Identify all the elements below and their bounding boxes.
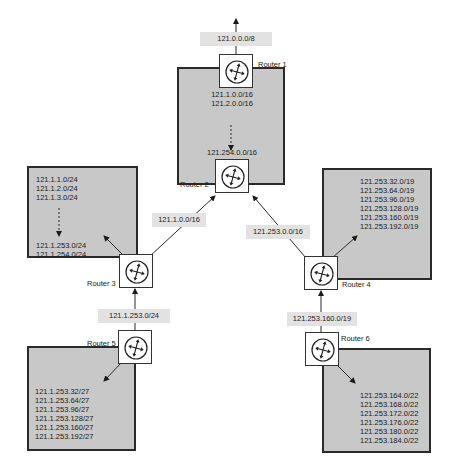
network-entry: 121.1.253.160/27: [35, 423, 93, 432]
network-entry: 121.1.3.0/24: [36, 193, 78, 202]
router-icon: [220, 55, 254, 89]
network-entry: 121.1.253.128/27: [35, 414, 93, 423]
network-entry: 121.253.184.0/22: [360, 436, 418, 445]
network-entry: 121.2.0.0/16: [190, 99, 274, 108]
network-entry: 121.1.2.0/24: [36, 184, 78, 193]
network-list-top-last: 121.254.0.0/16: [188, 148, 276, 157]
network-list-left-last: 121.1.253.0/24 121.1.254.0/24: [36, 241, 86, 259]
network-entry: 121.253.96.0/19: [360, 195, 418, 204]
router-5: [118, 330, 152, 364]
router-icon: [120, 255, 154, 289]
router-icon: [306, 333, 340, 367]
network-entry: 121.1.253.0/24: [36, 241, 86, 250]
network-list-bottom-left: 121.1.253.32/27 121.1.253.64/27 121.1.25…: [35, 387, 93, 441]
advertisement-label-router3: 121.1.0.0/16: [152, 213, 206, 227]
advertisement-label-router5: 121.1.253.0/24: [98, 309, 170, 323]
router-5-label: Router 5: [87, 339, 116, 348]
network-entry: 121.253.172.0/22: [360, 409, 418, 418]
network-entry: 121.253.128.0/19: [360, 204, 418, 213]
router-icon: [216, 160, 250, 194]
router-4: [304, 256, 338, 290]
router-1-label: Router 1: [258, 60, 287, 69]
router-1: [219, 54, 253, 88]
router-4-label: Router 4: [342, 280, 371, 289]
network-entry: 121.1.1.0/24: [36, 175, 78, 184]
network-entry: 121.1.253.64/27: [35, 396, 93, 405]
network-entry: 121.253.32.0/19: [360, 177, 418, 186]
advertisement-label-router6: 121.253.160.0/19: [287, 312, 357, 326]
network-entry: 121.253.176.0/22: [360, 418, 418, 427]
router-6: [305, 332, 339, 366]
network-entry: 121.1.253.192/27: [35, 432, 93, 441]
network-entry: 121.253.64.0/19: [360, 186, 418, 195]
network-entry: 121.1.0.0/16: [190, 90, 274, 99]
network-entry: 121.254.0.0/16: [188, 148, 276, 157]
network-entry: 121.1.253.96/27: [35, 405, 93, 414]
network-entry: 121.253.180.0/22: [360, 427, 418, 436]
router-3-label: Router 3: [87, 279, 116, 288]
router-2-label: Router 2: [180, 180, 209, 189]
network-list-right: 121.253.32.0/19 121.253.64.0/19 121.253.…: [360, 177, 418, 231]
router-icon: [305, 257, 339, 291]
advertisement-label-router1: 121.0.0.0/8: [200, 32, 272, 46]
network-list-left-first: 121.1.1.0/24 121.1.2.0/24 121.1.3.0/24: [36, 175, 78, 202]
network-list-bottom-right: 121.253.164.0/22 121.253.168.0/22 121.25…: [360, 391, 418, 445]
network-entry: 121.1.254.0/24: [36, 250, 86, 259]
network-entry: 121.253.192.0/19: [360, 222, 418, 231]
router-6-label: Router 6: [341, 334, 370, 343]
advertisement-label-router4: 121.253.0.0/16: [246, 225, 310, 239]
router-3: [119, 254, 153, 288]
network-entry: 121.253.160.0/19: [360, 213, 418, 222]
network-entry: 121.253.164.0/22: [360, 391, 418, 400]
router-2: [215, 159, 249, 193]
network-entry: 121.253.168.0/22: [360, 400, 418, 409]
router-icon: [119, 331, 153, 365]
network-list-top-first: 121.1.0.0/16 121.2.0.0/16: [190, 90, 274, 108]
network-entry: 121.1.253.32/27: [35, 387, 93, 396]
